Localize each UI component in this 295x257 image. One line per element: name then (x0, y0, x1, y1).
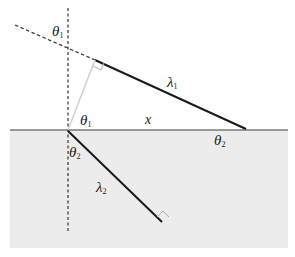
lower-medium-region (10, 130, 288, 248)
label-lambda1: λ1 (167, 75, 178, 91)
label-theta2-lower: θ2 (69, 145, 80, 161)
label-theta1-top: θ1 (52, 24, 63, 40)
diagram-svg (0, 0, 295, 257)
label-x: x (145, 113, 151, 127)
label-lambda2: λ2 (96, 180, 107, 196)
lambda1-wavefront-line (95, 60, 246, 129)
label-theta2-right: θ2 (214, 133, 225, 149)
refraction-diagram: θ1 λ1 θ1 x θ2 θ2 λ2 (0, 0, 295, 257)
label-theta1-mid: θ1 (80, 113, 91, 129)
